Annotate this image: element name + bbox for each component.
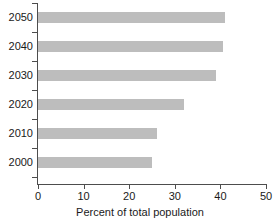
bar-row (0, 32, 280, 61)
x-tick-label-10: 10 (69, 190, 99, 202)
x-tick-label-30: 30 (160, 190, 190, 202)
bar-2000 (38, 157, 152, 168)
bar-2030 (38, 70, 216, 81)
x-tick-mark (175, 185, 176, 189)
bar-2050 (38, 12, 225, 23)
bar-2020 (38, 99, 184, 110)
x-tick-label-0: 0 (23, 190, 53, 202)
y-tick-mark (32, 177, 37, 178)
x-tick-mark (38, 185, 39, 189)
x-tick-mark (220, 185, 221, 189)
bar-row (0, 90, 280, 119)
bar-row (0, 61, 280, 90)
bar-row (0, 119, 280, 148)
bar-chart: 200020102020203020402050 01020304050 Per… (0, 0, 280, 224)
x-tick-mark (84, 185, 85, 189)
x-tick-mark (129, 185, 130, 189)
bar-row (0, 3, 280, 32)
x-tick-mark (266, 185, 267, 189)
x-axis-title: Percent of total population (0, 206, 280, 219)
x-tick-label-50: 50 (251, 190, 280, 202)
bar-2010 (38, 128, 157, 139)
x-tick-label-20: 20 (114, 190, 144, 202)
bar-2040 (38, 41, 223, 52)
bar-row (0, 148, 280, 177)
x-tick-label-40: 40 (205, 190, 235, 202)
x-axis-line (37, 184, 267, 185)
